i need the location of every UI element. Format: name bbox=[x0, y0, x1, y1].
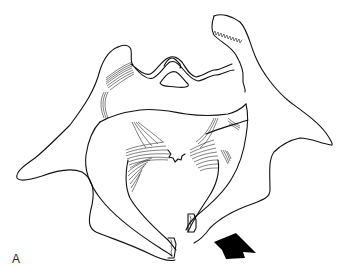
spinous-process bbox=[160, 72, 188, 88]
right-upper-lobe bbox=[212, 16, 245, 92]
left-upper-lobe bbox=[118, 45, 133, 65]
right-lobe-serration bbox=[213, 31, 242, 43]
left-body-outline bbox=[86, 122, 172, 256]
left-upper-ligament bbox=[106, 62, 134, 90]
left-pedicle bbox=[126, 160, 176, 250]
right-central-fan bbox=[190, 118, 218, 171]
top-arch-lower bbox=[135, 61, 234, 81]
arrow-icon bbox=[214, 233, 256, 259]
line-drawing bbox=[0, 0, 350, 275]
anatomical-figure: A bbox=[0, 0, 350, 275]
midline-notch bbox=[168, 150, 185, 162]
left-central-fan bbox=[126, 122, 170, 192]
left-end-hatch bbox=[171, 240, 172, 255]
right-small-tuft bbox=[221, 150, 231, 164]
right-process-outline bbox=[194, 15, 332, 243]
panel-label: A bbox=[12, 252, 20, 266]
right-pedicle bbox=[188, 160, 219, 232]
body-upper-edge bbox=[100, 104, 246, 122]
left-vertical-fibers bbox=[101, 92, 108, 118]
